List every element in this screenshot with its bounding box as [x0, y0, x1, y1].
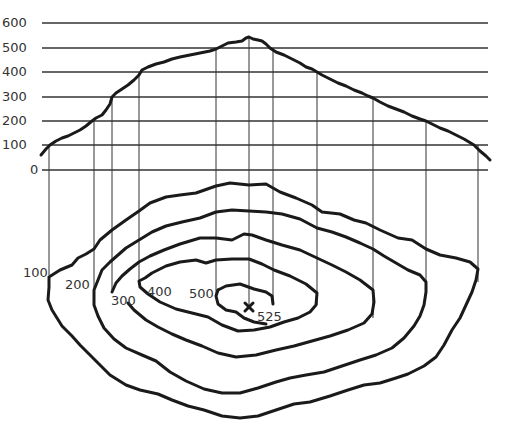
projection-lines [49, 37, 478, 318]
y-axis-label-200: 200 [2, 114, 27, 127]
contour-label-200: 200 [65, 278, 90, 291]
y-axis-label-400: 400 [2, 65, 27, 78]
y-axis-label-300: 300 [2, 90, 27, 103]
contour-label-300: 300 [111, 294, 136, 307]
contour-500 [218, 284, 273, 304]
topographic-diagram: 600 500 400 300 200 100 0 100 200 300 40… [0, 0, 508, 431]
y-axis-label-500: 500 [2, 41, 27, 54]
contour-label-100: 100 [23, 266, 48, 279]
y-axis-label-600: 600 [2, 16, 27, 29]
contour-label-500: 500 [189, 287, 214, 300]
diagram-graphics [0, 0, 508, 431]
y-axis-label-100: 100 [2, 138, 27, 151]
contour-label-400: 400 [147, 285, 172, 298]
y-axis-label-0: 0 [30, 163, 38, 176]
elevation-profile-curve [41, 37, 490, 160]
summit-label-525: 525 [257, 310, 282, 323]
